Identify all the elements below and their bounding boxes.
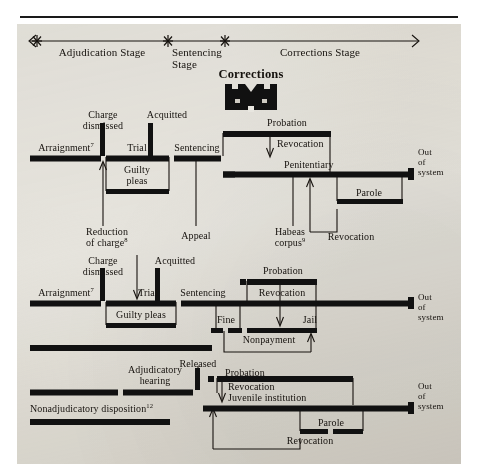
stage-label-corrections: Corrections Stage <box>280 47 360 58</box>
r3-parole-bar <box>300 429 328 434</box>
r3-out-of-system-line2: of <box>418 392 426 401</box>
r2-fine-label: Fine <box>217 315 235 325</box>
r1-reduction-label-line1: Reduction <box>86 227 128 237</box>
figure-page: Adjudication Stage Sentencing Stage Corr… <box>0 0 478 470</box>
r1-arraignment-label: Arraignment7 <box>38 143 94 153</box>
r1-habeas-label-line1: Habeas <box>275 227 305 237</box>
r3-probation-left-stub <box>208 376 214 382</box>
r2-guilty-pleas-label: Guilty pleas <box>116 310 166 320</box>
r3-parole-bar2 <box>333 429 363 434</box>
r1-charge-dismissed-label-line1: Charge <box>88 110 117 120</box>
r1-arraignment-bar <box>30 156 101 162</box>
r2-out-bar <box>225 301 413 307</box>
r1-guilty-pleas-label-line2: pleas <box>126 176 147 186</box>
r2-fine-bar <box>211 328 223 333</box>
r2-probation-label: Probation <box>263 266 303 276</box>
corrections-icon-title: Corrections <box>218 68 283 81</box>
r2-trial-label: Trial <box>138 288 158 298</box>
r1-charge-dismissed-label-line2: dismissed <box>83 121 123 131</box>
r1-trial-label: Trial <box>127 143 147 153</box>
r2-jail-bar <box>247 328 317 333</box>
r2-jail-label: Jail <box>303 315 317 325</box>
r1-habeas-label-line2: corpus9 <box>275 238 306 248</box>
r2-arraignment-bar <box>30 301 101 307</box>
r1-out-of-system-line3: system <box>418 168 444 177</box>
r2-trial-bar <box>106 301 176 307</box>
r1-probation-bar <box>223 131 331 137</box>
r3-released-label: Released <box>180 359 217 369</box>
r2-guilty-pleas-bar <box>106 323 176 328</box>
r3-nonadjudicatory-label: Nonadjudicatory disposition12 <box>30 404 153 414</box>
r1-penitentiary-label: Penitentiary <box>284 160 334 170</box>
r3-released-stub <box>195 368 200 390</box>
r2-out-of-system-line2: of <box>418 303 426 312</box>
r3-parole-label: Parole <box>318 418 344 428</box>
r1-acquitted-stub <box>148 123 153 156</box>
r1-appeal-label: Appeal <box>181 231 210 241</box>
r2-sentencing-bar <box>181 301 225 307</box>
r2-nonpayment-label: Nonpayment <box>243 335 296 345</box>
r1-out-terminal <box>408 168 414 180</box>
r1-guilty-pleas-label-line1: Guilty <box>124 165 150 175</box>
r3-probation-label: Probation <box>225 368 265 378</box>
r3-out-of-system-line1: Out <box>418 382 432 391</box>
r2-lower-rail <box>30 345 212 351</box>
r1-parole-bar <box>337 199 403 204</box>
r1-guilty-pleas-bar <box>106 189 169 194</box>
stage-label-adjudication: Adjudication Stage <box>59 47 145 58</box>
stage-label-sentencing-line2: Stage <box>172 59 197 70</box>
r3-intake-bar <box>30 390 118 396</box>
r2-out-of-system-line1: Out <box>418 293 432 302</box>
r1-parole-label: Parole <box>356 188 382 198</box>
r2-probation-bar <box>247 279 317 285</box>
r2-probation-left-stub <box>240 279 246 285</box>
r3-adjudicatory-bar <box>123 390 193 396</box>
r1-out-of-system-line2: of <box>418 158 426 167</box>
r1-probation-label: Probation <box>267 118 307 128</box>
r2-revocation-label: Revocation <box>259 288 306 298</box>
r3-out-of-system-line3: system <box>418 402 444 411</box>
r1-pen-left-stub <box>223 172 235 178</box>
r3-out-bar <box>323 406 413 412</box>
r3-out-terminal <box>408 402 414 414</box>
r2-out-terminal <box>408 297 414 309</box>
r1-sentencing-label: Sentencing <box>174 143 219 153</box>
r2-sentencing-label: Sentencing <box>180 288 225 298</box>
r3-nonadjudicatory-bar2 <box>30 419 170 425</box>
r3-adjudicatory-label-line1: Adjudicatory <box>128 365 182 375</box>
r2-charge-dismissed-label-line1: Charge <box>88 256 117 266</box>
r1-reduction-label-line2: of charge8 <box>86 238 128 248</box>
r2-fine-bar2 <box>228 328 242 333</box>
fortress-corrections-icon <box>225 84 277 112</box>
r2-arraignment-label: Arraignment7 <box>38 288 94 298</box>
r1-trial-bar <box>106 156 169 162</box>
r2-acquitted-label: Acquitted <box>155 256 195 266</box>
r1-revocation-label: Revocation <box>277 139 324 149</box>
r1-acquitted-label: Acquitted <box>147 110 187 120</box>
r1-out-of-system-line1: Out <box>418 148 432 157</box>
r3-revocation-label: Revocation <box>228 382 275 392</box>
stage-label-sentencing-line1: Sentencing <box>172 47 222 58</box>
r3-juvenile-bar <box>203 406 323 412</box>
r1-revocation2-label: Revocation <box>328 232 375 242</box>
r2-out-of-system-line3: system <box>418 313 444 322</box>
r3-adjudicatory-label-line2: hearing <box>140 376 171 386</box>
r3-juvenile-institution-label: Juvenile institution <box>228 393 306 403</box>
r1-sentencing-bar <box>174 156 221 162</box>
r3-revocation2-label: Revocation <box>287 436 334 446</box>
r2-charge-dismissed-label-line2: dismissed <box>83 267 123 277</box>
r1-penitentiary-bar <box>301 172 413 178</box>
